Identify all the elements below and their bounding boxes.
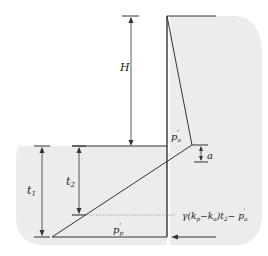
label-h: H [119, 61, 130, 74]
excavation-soil-region [16, 146, 167, 245]
h-arrow-up-icon [129, 17, 134, 23]
pressure-diagram: H t1 t2 pa' a pp' γ(kp−ka)t2− pa' [0, 0, 268, 256]
label-a: a [207, 150, 213, 161]
h-arrow-down-icon [129, 140, 134, 146]
